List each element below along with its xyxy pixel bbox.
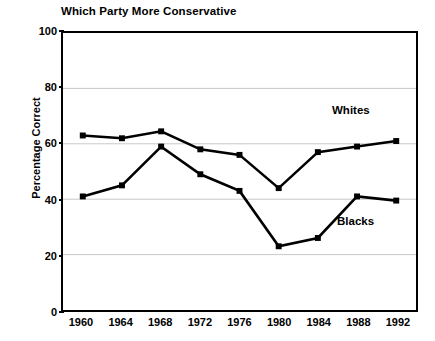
- data-point-marker: [237, 152, 243, 158]
- data-point-marker: [158, 144, 164, 150]
- data-point-marker: [276, 243, 282, 249]
- data-point-marker: [354, 144, 360, 150]
- chart-title: Which Party More Conservative: [61, 5, 236, 17]
- y-tick-label: 60: [17, 137, 57, 149]
- x-tick-label: 1992: [375, 316, 421, 328]
- data-point-marker: [393, 138, 399, 144]
- data-point-marker: [315, 149, 321, 155]
- chart-figure: Which Party More Conservative Percentage…: [0, 0, 435, 341]
- y-tick-label: 40: [17, 194, 57, 206]
- data-point-marker: [197, 146, 203, 152]
- data-point-marker: [80, 133, 86, 139]
- series-label-whites: Whites: [332, 104, 370, 116]
- y-tick-label: 20: [17, 250, 57, 262]
- series-markers: [63, 33, 416, 310]
- series-label-blacks: Blacks: [337, 215, 374, 227]
- data-point-marker: [315, 235, 321, 241]
- data-point-marker: [80, 193, 86, 199]
- data-point-marker: [276, 185, 282, 191]
- y-axis-ticks: 020406080100: [13, 31, 57, 312]
- data-point-marker: [119, 182, 125, 188]
- data-point-marker: [158, 128, 164, 134]
- data-point-marker: [119, 135, 125, 141]
- data-point-marker: [393, 198, 399, 204]
- data-point-marker: [237, 188, 243, 194]
- plot-area: [61, 31, 418, 312]
- data-point-marker: [197, 171, 203, 177]
- data-point-marker: [354, 193, 360, 199]
- x-axis-ticks: 196019641968197219761980198419881992: [61, 316, 418, 336]
- y-tick-label: 80: [17, 81, 57, 93]
- y-tick-label: 100: [17, 25, 57, 37]
- y-tick-label: 0: [17, 306, 57, 318]
